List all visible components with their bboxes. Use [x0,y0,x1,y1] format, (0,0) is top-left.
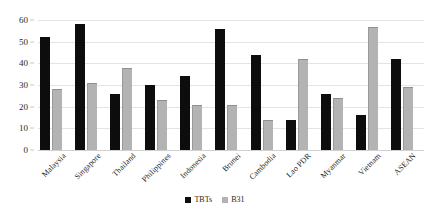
y-axis-tick-mark [30,41,34,42]
bar [75,24,85,150]
x-axis-tick-label: ASEAN [393,152,418,177]
y-axis-tick-label: 0 [24,146,29,155]
bar [52,89,62,150]
x-axis-labels: MalaysiaSingaporeThailandPhilippinesIndo… [38,152,424,198]
bar-group [38,20,73,150]
legend-label: B31 [231,196,244,204]
bar-group [143,20,178,150]
bar [145,85,155,150]
bar [215,29,225,150]
bar-chart: 0102030405060 MalaysiaSingaporeThailandP… [0,0,430,216]
gray-square-marker-icon [222,197,228,203]
x-axis-tick-label: Indonesia [179,152,207,180]
bar [263,120,273,150]
y-axis-tick-label: 60 [19,16,28,25]
bar [227,105,237,151]
y-axis-tick-label: 20 [19,102,28,111]
bar-group [178,20,213,150]
chart-legend: TBTsB31 [0,196,430,204]
bar-group [354,20,389,150]
x-axis-tick-label: Lao PDR [285,152,312,179]
bar-group [108,20,143,150]
y-axis-tick-mark [30,150,34,151]
y-axis-tick-label: 50 [19,37,28,46]
bar [298,59,308,150]
bar [333,98,343,150]
bar [122,68,132,150]
y-axis-tick-mark [30,63,34,64]
legend-item[interactable]: TBTs [185,196,212,204]
bar-groups [38,20,424,150]
bar [192,105,202,151]
bar [40,37,50,150]
legend-label: TBTs [194,196,212,204]
y-axis-tick-mark [30,128,34,129]
bar [157,100,167,150]
bar [87,83,97,150]
legend-item[interactable]: B31 [222,196,244,204]
bar-group [213,20,248,150]
y-axis-tick-label: 40 [19,59,28,68]
bar [286,120,296,150]
bar [251,55,261,150]
y-axis-tick-label: 10 [19,124,28,133]
bar [110,94,120,150]
bar-group [284,20,319,150]
bar [356,115,366,150]
y-axis: 0102030405060 [0,0,34,170]
bar [368,27,378,151]
black-square-marker-icon [185,197,191,203]
x-axis-tick-label: Malaysia [40,152,67,179]
bar-group [73,20,108,150]
bar [391,59,401,150]
x-axis-tick-label: Philippines [141,152,173,184]
bar [403,87,413,150]
x-axis-tick-label: Thailand [111,152,137,178]
x-axis-tick-label: Vietnam [358,152,383,177]
y-axis-tick-label: 30 [19,81,28,90]
bar-group [319,20,354,150]
y-axis-tick-mark [30,85,34,86]
y-axis-tick-mark [30,20,34,21]
bar [180,76,190,150]
bar [321,94,331,150]
plot-area [38,20,424,150]
bar-group [249,20,284,150]
x-axis-tick-label: Myanmar [320,152,348,180]
bar-group [389,20,424,150]
y-axis-tick-mark [30,106,34,107]
x-axis-tick-label: Singapore [73,152,102,181]
x-axis-tick-label: Cambodia [248,152,277,181]
x-axis-tick-label: Brunei [221,152,242,173]
